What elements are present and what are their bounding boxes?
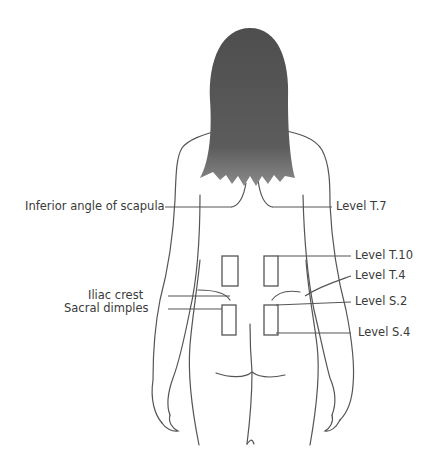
label-sacral-dimples: Sacral dimples xyxy=(64,303,149,315)
body-outline-drawing xyxy=(0,0,428,470)
landmark-boxes xyxy=(222,256,278,335)
label-level-s4: Level S.4 xyxy=(358,327,410,339)
label-inferior-angle-scapula: Inferior angle of scapula xyxy=(25,201,165,213)
label-level-t7: Level T.7 xyxy=(336,201,387,213)
anatomy-diagram: Inferior angle of scapula Iliac crest Sa… xyxy=(0,0,428,470)
label-iliac-crest: Iliac crest xyxy=(88,290,143,302)
label-level-t10: Level T.10 xyxy=(355,250,413,262)
hair xyxy=(200,28,295,186)
label-level-t4: Level T.4 xyxy=(355,270,406,282)
label-level-s2: Level S.2 xyxy=(355,296,407,308)
